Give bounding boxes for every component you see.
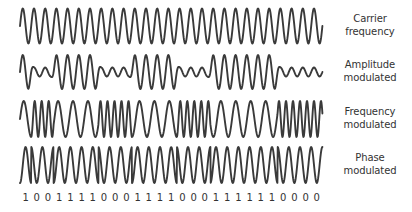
bit-value: 0 <box>199 191 210 205</box>
label-line-2: frequency <box>330 25 410 38</box>
bit-value: 0 <box>278 191 289 205</box>
bit-value: 0 <box>289 191 300 205</box>
bit-value: 1 <box>267 191 278 205</box>
label-line-2: modulated <box>330 118 410 131</box>
bit-value: 0 <box>99 191 110 205</box>
bit-value: 1 <box>233 191 244 205</box>
label-line-2: modulated <box>330 164 410 177</box>
bit-value: 0 <box>188 191 199 205</box>
bit-value: 1 <box>87 191 98 205</box>
label-line-1: Phase <box>330 151 410 164</box>
frequency-modulated-label: Frequency modulated <box>330 105 410 131</box>
bit-value: 1 <box>222 191 233 205</box>
bit-value: 0 <box>177 191 188 205</box>
bit-value: 1 <box>143 191 154 205</box>
bit-value: 1 <box>132 191 143 205</box>
phase-modulated-wave <box>20 147 322 183</box>
bit-value: 1 <box>54 191 65 205</box>
frequency-modulated-wave <box>20 101 322 137</box>
bit-value: 1 <box>166 191 177 205</box>
bit-value: 1 <box>65 191 76 205</box>
bit-value: 1 <box>20 191 31 205</box>
bit-value: 1 <box>155 191 166 205</box>
amplitude-modulated-label: Amplitude modulated <box>330 58 410 84</box>
bit-value: 1 <box>244 191 255 205</box>
bit-value: 0 <box>311 191 322 205</box>
bit-value: 0 <box>43 191 54 205</box>
amplitude-modulated-wave <box>20 55 322 89</box>
bit-value: 1 <box>255 191 266 205</box>
bit-value: 0 <box>121 191 132 205</box>
bit-value: 0 <box>110 191 121 205</box>
phase-modulated-label: Phase modulated <box>330 151 410 177</box>
label-line-1: Amplitude <box>330 58 410 71</box>
label-line-1: Carrier <box>330 12 410 25</box>
carrier-frequency-label: Carrier frequency <box>330 12 410 38</box>
label-line-1: Frequency <box>330 105 410 118</box>
carrier-wave <box>20 9 322 44</box>
binary-data-sequence: 100111100011110001111110000 <box>0 191 412 205</box>
bit-value: 1 <box>76 191 87 205</box>
bit-value: 0 <box>300 191 311 205</box>
modulation-diagram: Carrier frequency Amplitude modulated Fr… <box>0 0 412 212</box>
bit-value: 0 <box>31 191 42 205</box>
bit-value: 1 <box>211 191 222 205</box>
label-line-2: modulated <box>330 71 410 84</box>
